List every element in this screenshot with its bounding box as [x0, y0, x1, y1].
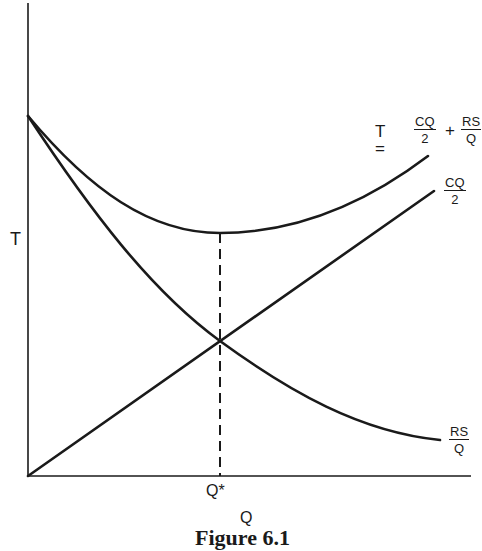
ordering-cost-label: RS Q — [449, 425, 469, 455]
y-axis-label: T — [10, 230, 21, 248]
fraction-numerator: RS — [449, 425, 469, 440]
fraction-denominator: 2 — [421, 130, 428, 145]
q-star-label: Q* — [206, 483, 225, 499]
figure-caption: Figure 6.1 — [195, 525, 290, 551]
x-axis-label: Q — [240, 510, 252, 526]
fraction-numerator: RS — [461, 115, 481, 130]
plus-sign: + — [445, 122, 455, 139]
fraction-denominator: Q — [454, 440, 464, 455]
fraction-numerator: CQ — [414, 115, 436, 130]
holding-cost-label: CQ 2 — [444, 176, 466, 206]
total-term2-fraction: RS Q — [461, 115, 481, 145]
total-term1-fraction: CQ 2 — [414, 115, 436, 145]
ordering-cost-curve — [28, 116, 440, 440]
total-prefix: T = — [375, 123, 385, 157]
fraction-denominator: 2 — [451, 191, 458, 206]
fraction-numerator: CQ — [444, 176, 466, 191]
total-cost-curve — [28, 116, 428, 233]
fraction-denominator: Q — [466, 130, 476, 145]
